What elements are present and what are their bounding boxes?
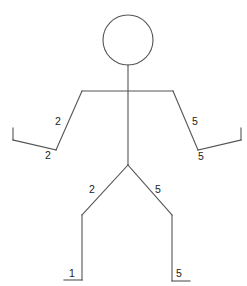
right-thigh — [128, 165, 172, 215]
label-right-forearm: 5 — [198, 151, 204, 162]
label-right-upper-arm: 5 — [192, 116, 198, 127]
stick-figure-diagram — [0, 0, 247, 286]
head — [103, 15, 153, 65]
label-right-foot: 5 — [176, 268, 182, 279]
label-left-forearm: 2 — [45, 150, 51, 161]
label-right-thigh: 5 — [155, 184, 161, 195]
label-left-upper-arm: 2 — [55, 116, 61, 127]
right-forearm — [198, 140, 241, 150]
label-left-thigh: 2 — [89, 184, 95, 195]
label-left-foot: 1 — [69, 268, 75, 279]
